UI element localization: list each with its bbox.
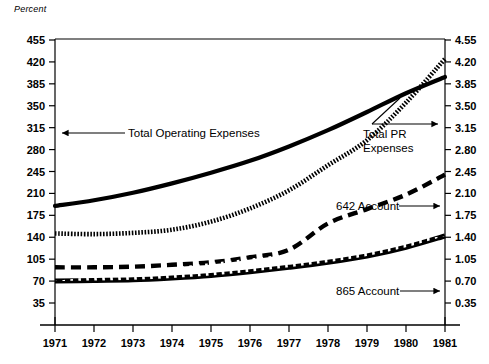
y-axis-left-tick-label: 455: [27, 34, 45, 46]
line-chart-plot: 3570105140175210245280315350385420455 0.…: [0, 0, 489, 364]
annotation-label-total-pr-expenses-line1: Total PR: [363, 128, 406, 140]
y-axis-left-tick-label: 140: [27, 231, 45, 243]
y-axis-left-tick-label: 385: [27, 78, 45, 90]
y-axis-left-tick-label: 315: [27, 122, 45, 134]
y-axis-right-tick-label: 3.50: [455, 100, 476, 112]
data-series-layer: [35, 29, 485, 345]
y-axis-left-tick-label: 70: [33, 275, 45, 287]
annotation-label-total-operating-expenses: Total Operating Expenses: [128, 127, 260, 139]
annotation-label-642-account: 642 Account: [336, 200, 400, 212]
annotation-total-operating-expenses: Total Operating Expenses: [62, 127, 260, 139]
x-axis-tick-label: 1973: [121, 337, 145, 349]
y-axis-left-tick-label: 175: [27, 209, 45, 221]
y-axis-right-tick-label: 2.10: [455, 187, 476, 199]
x-axis-tick-label: 1972: [82, 337, 106, 349]
x-axis-tick-label: 1971: [43, 337, 67, 349]
x-axis-tick-label: 1975: [199, 337, 223, 349]
y-axis-right-tick-label: 1.75: [455, 209, 476, 221]
x-axis-tick-label: 1978: [316, 337, 340, 349]
series-hatch-mask: [35, 29, 485, 345]
x-axis-tick-label: 1979: [355, 337, 379, 349]
y-axis-left-tick-label: 245: [27, 166, 45, 178]
y-axis-right-tick-label: 2.80: [455, 144, 476, 156]
y-axis-left-tick-label: 420: [27, 56, 45, 68]
y-axis-right-tick-label: 3.15: [455, 122, 476, 134]
chart-figure: Percent 35701051401752102452803153503854…: [0, 0, 489, 364]
annotation-642-account: 642 Account: [336, 200, 440, 212]
y-axis-left-tick-label: 280: [27, 144, 45, 156]
y-axis-right-tick-label: 0.35: [455, 297, 476, 309]
y-axis-right-tick-label: 4.20: [455, 56, 476, 68]
y-axis-right-tick-label: 1.05: [455, 253, 476, 265]
annotation-label-total-pr-expenses-line2: Expenses: [363, 142, 414, 154]
x-axis-tick-label: 1980: [394, 337, 418, 349]
data-series-865-account: [35, 29, 485, 345]
annotation-865-account: 865 Account: [336, 285, 440, 297]
y-axis-right-tick-label: 4.55: [455, 34, 476, 46]
annotation-label-865-account: 865 Account: [336, 285, 400, 297]
y-axis-right-tick-label: 1.40: [455, 231, 476, 243]
x-axis-tick-label: 1976: [238, 337, 262, 349]
y-axis-right-tick-label: 2.45: [455, 166, 476, 178]
y-axis-left-ticks: 3570105140175210245280315350385420455: [27, 34, 55, 309]
y-axis-right-ticks: 0.350.701.051.401.752.102.452.803.153.50…: [445, 34, 476, 309]
y-axis-left-tick-label: 35: [33, 297, 45, 309]
y-axis-right-tick-label: 3.85: [455, 78, 476, 90]
x-axis-tick-label: 1974: [160, 337, 185, 349]
y-axis-left-tick-label: 350: [27, 100, 45, 112]
y-axis-left-tick-label: 105: [27, 253, 45, 265]
x-axis-ticks: 1971197219731974197519761977197819791980…: [43, 317, 457, 349]
x-axis-tick-label: 1977: [277, 337, 301, 349]
x-axis-tick-label: 1981: [433, 337, 457, 349]
y-axis-right-tick-label: 0.70: [455, 275, 476, 287]
y-axis-left-tick-label: 210: [27, 187, 45, 199]
